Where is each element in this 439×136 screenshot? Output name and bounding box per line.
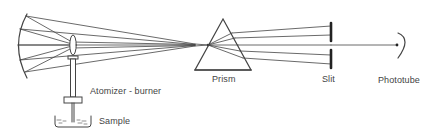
mirror-reflection-rays [18,16,72,72]
converging-rays [18,16,195,72]
prism-label: Prism [212,75,236,84]
concave-mirror [19,14,28,78]
lens [70,35,76,55]
sample-label: Sample [99,117,130,126]
phototube-label: Phototube [378,76,420,85]
phototube-anode [396,44,399,47]
phototube-cathode [398,33,405,58]
optical-diagram [0,0,439,136]
dispersed-rays [232,26,331,64]
atomizer-block [64,97,82,103]
atomizer-burner-label: Atomizer - burner [90,87,161,96]
atomizer-burner-tube [71,59,76,97]
slit-label: Slit [322,75,335,84]
prism-entry-rays [195,44,208,46]
sample-dish [55,116,91,127]
